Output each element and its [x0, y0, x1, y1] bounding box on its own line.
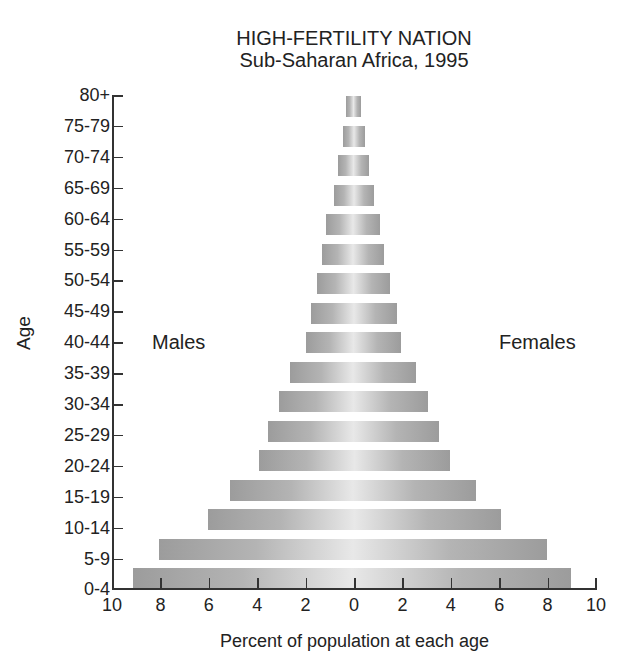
y-tick	[112, 188, 123, 190]
x-tick-label: 0	[334, 595, 374, 615]
y-tick	[112, 559, 123, 561]
y-tick-label: 35-39	[64, 363, 110, 383]
y-tick-label: 60-64	[64, 209, 110, 229]
y-tick	[112, 342, 123, 344]
x-tick	[451, 578, 453, 588]
age-bar-60-64	[326, 214, 379, 235]
y-tick-label: 45-49	[64, 301, 110, 321]
x-tick-label: 4	[237, 595, 277, 615]
x-tick	[160, 578, 162, 588]
y-tick-label: 55-59	[64, 240, 110, 260]
age-bar-50-54	[317, 273, 391, 294]
y-tick	[112, 219, 123, 221]
x-tick	[354, 578, 356, 588]
y-tick	[112, 497, 123, 499]
chart-subtitle: Sub-Saharan Africa, 1995	[0, 49, 628, 71]
age-bar-35-39	[290, 362, 416, 383]
age-bar-65-69	[334, 185, 374, 206]
x-axis-line	[112, 588, 597, 590]
y-axis-label: Age	[13, 313, 35, 353]
x-tick-label: 8	[140, 595, 180, 615]
age-bar-80plus	[346, 96, 362, 117]
x-tick	[595, 578, 597, 589]
y-tick	[112, 528, 123, 530]
y-tick	[112, 373, 123, 375]
y-tick-label: 80+	[79, 85, 110, 105]
y-tick-label: 20-24	[64, 456, 110, 476]
y-tick	[112, 157, 123, 159]
y-tick	[112, 435, 123, 437]
y-tick-label: 30-34	[64, 394, 110, 414]
y-tick	[112, 126, 123, 128]
y-tick	[112, 311, 123, 313]
x-tick-label: 4	[431, 595, 471, 615]
y-tick	[112, 466, 123, 468]
x-tick-label: 8	[528, 595, 568, 615]
y-tick-label: 75-79	[64, 116, 110, 136]
x-tick	[499, 578, 501, 588]
y-tick-label: 70-74	[64, 147, 110, 167]
x-tick	[209, 578, 211, 588]
age-bar-45-49	[311, 303, 397, 324]
y-tick-label: 25-29	[64, 425, 110, 445]
y-tick-label: 10-14	[64, 518, 110, 538]
x-tick-label: 10	[576, 595, 616, 615]
age-bar-55-59	[322, 244, 385, 265]
x-tick	[306, 578, 308, 588]
y-tick	[112, 250, 123, 252]
y-tick-label: 50-54	[64, 270, 110, 290]
y-tick-label: 5-9	[84, 549, 110, 569]
age-bar-5-9	[159, 539, 546, 560]
x-tick-label: 2	[286, 595, 326, 615]
x-axis-title: Percent of population at each age	[112, 631, 597, 652]
chart-title: HIGH-FERTILITY NATION	[0, 27, 628, 49]
y-tick	[112, 404, 123, 406]
x-tick	[257, 578, 259, 588]
y-tick-label: 40-44	[64, 332, 110, 352]
y-tick	[112, 280, 123, 282]
x-tick-label: 6	[189, 595, 229, 615]
females-label: Females	[499, 331, 576, 353]
age-bar-75-79	[343, 126, 365, 147]
x-tick-label: 2	[382, 595, 422, 615]
age-bar-25-29	[268, 421, 439, 442]
x-tick-label: 10	[92, 595, 132, 615]
age-bar-30-34	[279, 391, 428, 412]
age-bar-0-4	[133, 568, 571, 589]
age-bar-40-44	[306, 332, 402, 353]
y-tick-label: 65-69	[64, 178, 110, 198]
age-bar-15-19	[230, 480, 477, 501]
x-tick	[548, 578, 550, 588]
x-tick-label: 6	[479, 595, 519, 615]
x-tick	[402, 578, 404, 588]
y-tick	[112, 95, 123, 97]
y-tick-label: 15-19	[64, 487, 110, 507]
males-label: Males	[152, 331, 205, 353]
age-bar-20-24	[259, 450, 450, 471]
age-bar-70-74	[338, 155, 368, 176]
age-bar-10-14	[208, 509, 501, 530]
